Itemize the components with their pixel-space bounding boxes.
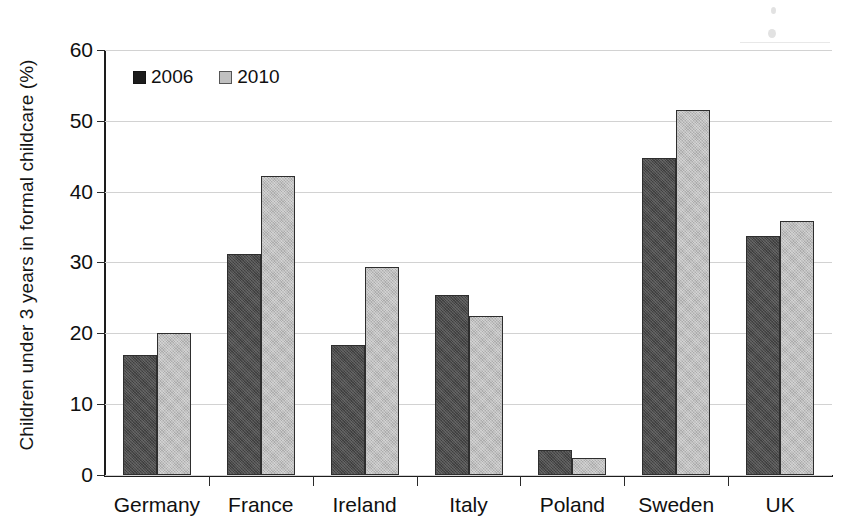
y-tick-mark	[97, 404, 105, 405]
y-tick-label: 60	[70, 38, 93, 62]
y-tick-mark	[97, 50, 105, 51]
bar-sweden-2006	[642, 158, 676, 475]
bar-poland-2010	[572, 458, 606, 475]
bar-italy-2010	[469, 316, 503, 475]
bar-poland-2006	[538, 450, 572, 475]
chart-page: Children under 3 years in formal childca…	[0, 0, 868, 525]
y-tick-mark	[97, 121, 105, 122]
x-tick-label-sweden: Sweden	[638, 493, 714, 517]
x-tick-label-france: France	[228, 493, 293, 517]
legend-swatch-dark-square-icon	[133, 71, 146, 84]
bar-uk-2010	[780, 221, 814, 475]
legend-label: 2010	[237, 66, 279, 88]
x-tick-label-ireland: Ireland	[333, 493, 397, 517]
x-tick-mark	[417, 476, 418, 486]
bar-france-2010	[261, 176, 295, 475]
bar-uk-2006	[746, 236, 780, 475]
scan-streak	[740, 42, 830, 43]
x-tick-label-uk: UK	[765, 493, 794, 517]
gridline	[105, 121, 832, 122]
gridline	[105, 262, 832, 263]
plot-area: 0 10 20 30 40 50 60	[105, 50, 832, 475]
x-tick-mark	[624, 476, 625, 486]
y-tick-label: 40	[70, 180, 93, 204]
y-tick-label: 20	[70, 321, 93, 345]
bar-ireland-2006	[331, 345, 365, 475]
x-tick-mark	[209, 476, 210, 486]
y-tick-label: 10	[70, 392, 93, 416]
bar-ireland-2010	[365, 267, 399, 475]
y-tick-label: 50	[70, 109, 93, 133]
x-tick-label-germany: Germany	[114, 493, 200, 517]
y-tick-mark	[97, 262, 105, 263]
legend-item-2006[interactable]: 2006	[133, 66, 193, 88]
legend-item-2010[interactable]: 2010	[219, 66, 279, 88]
y-tick-label: 30	[70, 250, 93, 274]
legend: 2006 2010	[133, 66, 280, 88]
legend-swatch-light-square-icon	[219, 71, 232, 84]
bar-italy-2006	[435, 295, 469, 475]
scan-speck	[768, 29, 776, 38]
y-axis-line	[104, 50, 106, 476]
x-tick-mark	[520, 476, 521, 486]
y-tick-label: 0	[81, 463, 93, 487]
legend-label: 2006	[151, 66, 193, 88]
x-tick-label-italy: Italy	[449, 493, 488, 517]
bar-germany-2006	[123, 355, 157, 475]
y-tick-mark	[97, 192, 105, 193]
gridline	[105, 192, 832, 193]
gridline	[105, 475, 832, 476]
bar-germany-2010	[157, 333, 191, 475]
y-tick-mark	[97, 333, 105, 334]
x-tick-mark	[313, 476, 314, 486]
x-tick-label-poland: Poland	[540, 493, 605, 517]
bar-sweden-2010	[676, 110, 710, 476]
gridline	[105, 50, 832, 51]
y-tick-mark	[97, 475, 105, 476]
y-axis-title: Children under 3 years in formal childca…	[14, 30, 40, 480]
x-tick-mark	[728, 476, 729, 486]
bar-france-2006	[227, 254, 261, 475]
scan-speck	[771, 7, 776, 14]
